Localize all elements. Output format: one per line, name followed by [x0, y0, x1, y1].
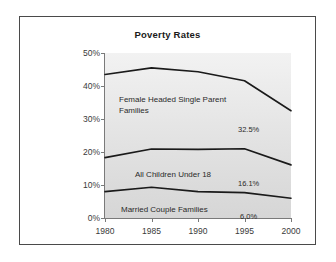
y-tick-label: 10%: [83, 180, 100, 190]
series-lines: [105, 53, 291, 218]
x-tick-label: 1985: [142, 226, 161, 236]
value-label-married-couple: 6.0%: [240, 212, 257, 221]
plot-area: 0%10%20%30%40%50% 19801985199019952000 F…: [104, 53, 291, 219]
chart-frame: Poverty Rates 0%10%20%30%40%50% 19801985…: [19, 16, 316, 245]
series-annotation-married-couple: Married Couple Families: [121, 205, 208, 216]
series-line-1: [105, 149, 291, 165]
x-tick-mark: [152, 218, 153, 222]
x-tick-label: 1995: [235, 226, 254, 236]
x-tick-mark: [198, 218, 199, 222]
x-tick-label: 2000: [282, 226, 301, 236]
value-label-female-headed: 32.5%: [238, 125, 259, 134]
x-tick-label: 1980: [96, 226, 115, 236]
series-annotation-female-headed: Female Headed Single Parent Families: [119, 95, 226, 116]
y-tick-label: 0%: [88, 213, 100, 223]
series-annotation-all-children: All Children Under 18: [135, 170, 211, 181]
y-tick-label: 20%: [83, 147, 100, 157]
x-tick-label: 1990: [189, 226, 208, 236]
y-tick-label: 40%: [83, 81, 100, 91]
chart-title: Poverty Rates: [20, 29, 315, 40]
series-line-2: [105, 187, 291, 198]
x-tick-mark: [105, 218, 106, 222]
value-label-all-children: 16.1%: [238, 179, 259, 188]
y-tick-label: 30%: [83, 114, 100, 124]
x-tick-mark: [291, 218, 292, 222]
chart-figure: Poverty Rates 0%10%20%30%40%50% 19801985…: [0, 0, 336, 262]
y-tick-label: 50%: [83, 48, 100, 58]
